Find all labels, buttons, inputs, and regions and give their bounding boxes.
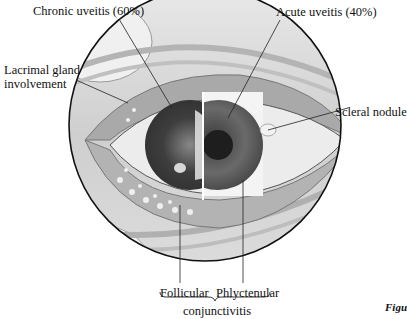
label-chronic-uveitis: Chronic uveitis (60%)	[33, 4, 144, 18]
eye-drawing: ROTBERG	[43, 0, 360, 315]
label-conjunctivitis: conjunctivitis	[183, 304, 251, 318]
label-lacrimal-gland-line2: involvement	[4, 77, 67, 91]
label-phlyctenular: Phlyctenular	[216, 286, 279, 300]
label-follicular: Follicular	[160, 286, 209, 300]
label-lacrimal-gland-line1: Lacrimal gland	[4, 63, 80, 77]
label-scleral-nodule: Scleral nodule	[335, 105, 407, 119]
label-acute-uveitis: Acute uveitis (40%)	[276, 5, 377, 19]
figure-caption-fragment: Figu	[385, 301, 407, 313]
